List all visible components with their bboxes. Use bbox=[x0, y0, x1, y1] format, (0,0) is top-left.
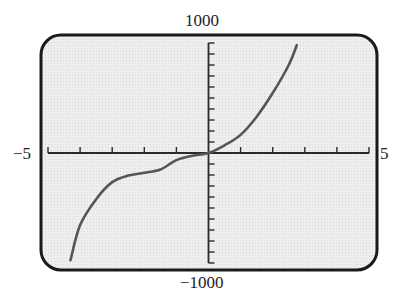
y-min-label: −1000 bbox=[180, 274, 224, 291]
calculator-screen bbox=[0, 0, 415, 308]
y-max-label: 1000 bbox=[185, 12, 219, 29]
x-max-label: 5 bbox=[380, 145, 389, 162]
x-min-label: −5 bbox=[13, 145, 31, 162]
